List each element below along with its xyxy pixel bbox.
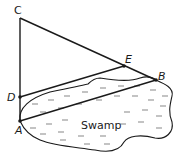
point-A — [18, 119, 22, 123]
label-E: E — [125, 53, 132, 66]
label-D: D — [7, 91, 15, 104]
point-D — [18, 95, 22, 99]
segment-CB — [20, 18, 156, 80]
label-C: C — [14, 4, 22, 17]
swamp-label: Swamp — [81, 119, 121, 132]
diagram-canvas: C D A E B Swamp — [0, 0, 179, 166]
label-A: A — [14, 124, 23, 137]
label-B: B — [158, 70, 166, 83]
